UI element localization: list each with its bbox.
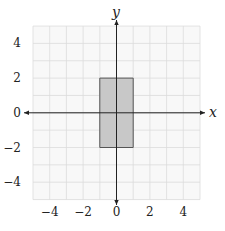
y-axis-arrow-up-icon: [114, 20, 118, 25]
coordinate-plane: x y −4−2024 420−2−4: [0, 0, 225, 231]
x-tick-label: 0: [113, 205, 121, 219]
y-tick-label: −2: [3, 141, 21, 155]
x-axis-label: x: [209, 104, 217, 120]
x-tick-label: −4: [41, 205, 59, 219]
y-tick-labels: 420−2−4: [3, 36, 21, 189]
y-axis-label: y: [111, 4, 121, 20]
y-tick-label: 0: [13, 106, 21, 120]
y-tick-label: 2: [13, 71, 21, 85]
x-tick-labels: −4−2024: [41, 205, 188, 219]
x-axis-arrow-left-icon: [24, 111, 29, 115]
x-axis-arrow-right-icon: [200, 111, 205, 115]
x-tick-label: 4: [179, 205, 187, 219]
x-tick-label: −2: [74, 205, 92, 219]
y-tick-label: −4: [3, 175, 21, 189]
y-tick-label: 4: [13, 36, 21, 50]
x-tick-label: 2: [146, 205, 154, 219]
